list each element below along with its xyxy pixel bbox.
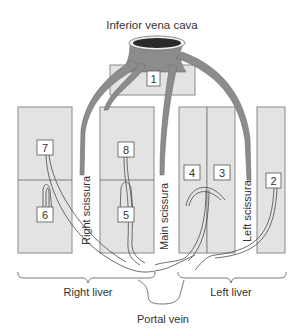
segment-2-label: 2 — [266, 173, 281, 188]
right-liver-label: Right liver — [64, 286, 113, 298]
segment-4-number: 4 — [189, 167, 195, 179]
segment-4-label: 4 — [184, 165, 200, 180]
segment-8-number: 8 — [123, 144, 129, 156]
left-liver-label: Left liver — [210, 286, 252, 298]
title-inferior-vena-cava: Inferior vena cava — [106, 19, 198, 31]
segment-3-number: 3 — [219, 167, 225, 179]
portal-vein-label: Portal vein — [137, 313, 189, 325]
liver-segments-diagram: 1 7 6 8 5 4 3 2 Inferior — [0, 0, 305, 333]
segment-7-number: 7 — [42, 142, 48, 154]
segment-5-label: 5 — [118, 207, 134, 222]
portal-vein-brace — [138, 280, 184, 304]
segment-5-number: 5 — [123, 209, 129, 221]
segment-1-label: 1 — [147, 71, 160, 86]
ivc-lumen — [133, 38, 181, 48]
segment-7-label: 7 — [37, 140, 53, 155]
segment-6-label: 6 — [37, 207, 53, 222]
segment-6-number: 6 — [42, 209, 48, 221]
segment-3-label: 3 — [214, 165, 230, 180]
segment-2-number: 2 — [270, 175, 276, 187]
segment-1-number: 1 — [150, 73, 156, 85]
left-scissura-label: Left scissura — [241, 179, 253, 242]
main-scissura-label: Main scissura — [158, 182, 170, 250]
right-liver-brace — [18, 272, 155, 283]
right-scissura-label: Right scissura — [80, 175, 92, 245]
segment-8-label: 8 — [118, 142, 134, 157]
left-liver-brace — [178, 272, 286, 283]
